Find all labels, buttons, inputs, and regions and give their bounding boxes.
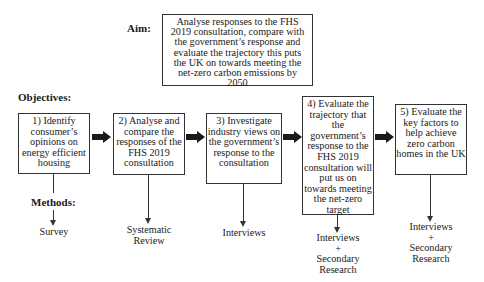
method-line: Review xyxy=(118,236,180,247)
method-interviews: Interviews xyxy=(213,228,275,239)
objective-box-4: 4) Evaluate the trajectory that the gove… xyxy=(302,96,374,215)
method-interviews-secondary-research: Interviews + Secondary Research xyxy=(305,233,371,275)
connector-line xyxy=(430,175,431,217)
right-arrow-icon xyxy=(186,131,205,145)
method-interviews-secondary-research: Interviews + Secondary Research xyxy=(398,222,464,264)
objective-box-1: 1) Identify consumer’s opinions on energ… xyxy=(18,113,90,174)
method-line: Interviews xyxy=(305,233,371,244)
method-line: Research xyxy=(398,254,464,265)
objectives-label: Objectives: xyxy=(18,91,71,103)
method-line: Interviews xyxy=(213,228,275,239)
aim-box: Analyse responses to the FHS 2019 consul… xyxy=(162,14,313,86)
method-line: Systematic xyxy=(118,225,180,236)
connector-line xyxy=(148,175,149,219)
method-line: Survey xyxy=(23,227,85,238)
connector-line xyxy=(53,174,54,193)
method-systematic-review: Systematic Review xyxy=(118,225,180,246)
method-line: Interviews xyxy=(398,222,464,233)
method-line: Research xyxy=(305,265,371,276)
objective-box-2: 2) Analyse and compare the responses of … xyxy=(113,113,185,175)
methods-label: Methods: xyxy=(31,196,76,208)
aim-label: Aim: xyxy=(127,22,151,34)
right-arrow-icon xyxy=(283,131,302,145)
connector-line xyxy=(243,184,244,222)
right-arrow-icon xyxy=(375,131,394,145)
method-survey: Survey xyxy=(23,227,85,238)
right-arrow-icon xyxy=(92,131,111,145)
objective-box-3: 3) Investigate industry views on the gov… xyxy=(206,113,282,184)
objective-box-5: 5) Evaluate the key factors to help achi… xyxy=(395,104,467,175)
